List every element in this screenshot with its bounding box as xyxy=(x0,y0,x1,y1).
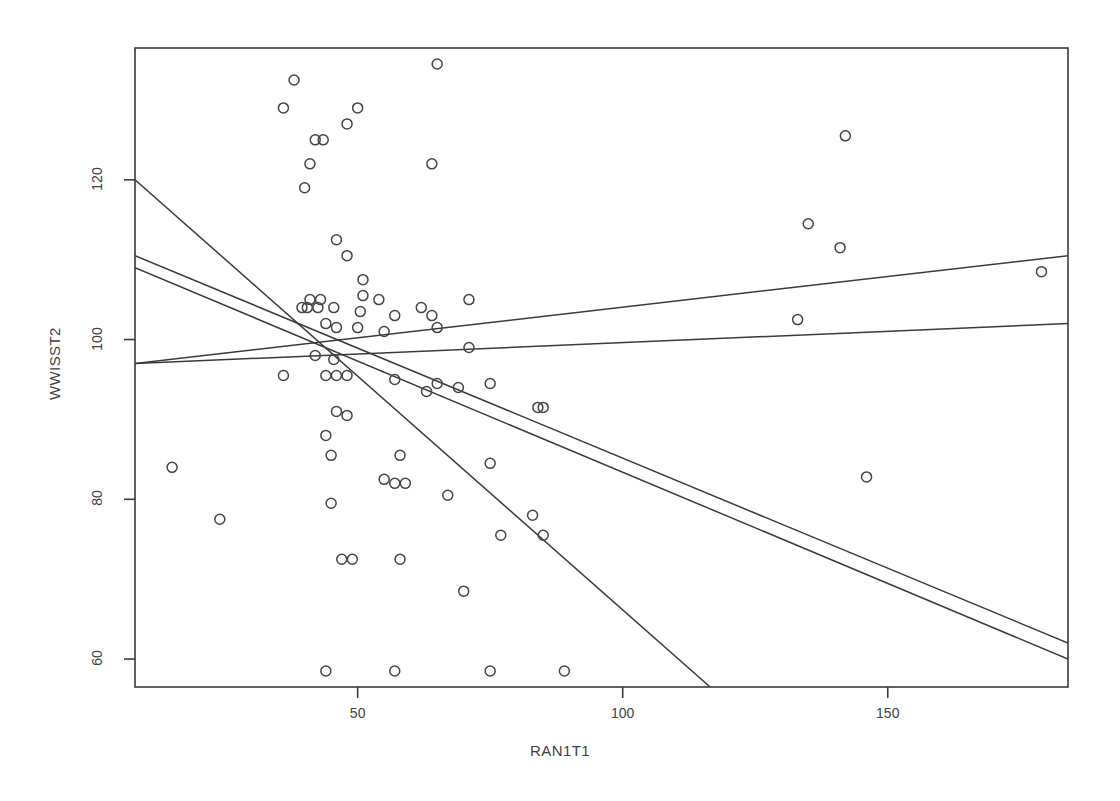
steep-negative-line xyxy=(135,180,710,687)
data-point xyxy=(390,478,400,488)
data-point xyxy=(559,666,569,676)
data-point xyxy=(326,498,336,508)
data-point xyxy=(278,103,288,113)
data-point xyxy=(443,490,453,500)
data-point xyxy=(331,370,341,380)
data-points xyxy=(167,59,1046,676)
y-tick-label: 120 xyxy=(89,159,105,199)
x-tick-label: 100 xyxy=(603,705,643,721)
data-point xyxy=(464,343,474,353)
data-point xyxy=(432,378,442,388)
x-axis-title: RAN1T1 xyxy=(0,742,1120,759)
data-point xyxy=(326,450,336,460)
data-point xyxy=(390,666,400,676)
data-point xyxy=(395,554,405,564)
scatter-plot-figure: RAN1T1 WWISST2 501001506080100120 xyxy=(0,0,1120,801)
data-point xyxy=(528,510,538,520)
x-tick-label: 50 xyxy=(338,705,378,721)
data-point xyxy=(215,514,225,524)
y-axis-title: WWISST2 xyxy=(46,327,63,400)
data-point xyxy=(358,291,368,301)
data-point xyxy=(321,370,331,380)
regression-lines xyxy=(135,180,1068,687)
data-point xyxy=(374,295,384,305)
data-point xyxy=(342,251,352,261)
y-tick-label: 80 xyxy=(89,478,105,518)
data-point xyxy=(400,478,410,488)
plot-canvas xyxy=(0,0,1120,801)
data-point xyxy=(321,430,331,440)
data-point xyxy=(355,307,365,317)
data-point xyxy=(395,450,405,460)
data-point xyxy=(379,474,389,484)
data-point xyxy=(305,159,315,169)
data-point xyxy=(342,370,352,380)
data-point xyxy=(353,323,363,333)
data-point xyxy=(427,311,437,321)
y-tick-label: 60 xyxy=(89,638,105,678)
data-point xyxy=(347,554,357,564)
data-point xyxy=(538,530,548,540)
data-point xyxy=(1036,267,1046,277)
data-point xyxy=(793,315,803,325)
x-tick-label: 150 xyxy=(868,705,908,721)
y-tick-label: 100 xyxy=(89,319,105,359)
data-point xyxy=(342,119,352,129)
data-point xyxy=(331,235,341,245)
data-point xyxy=(329,303,339,313)
data-point xyxy=(390,311,400,321)
data-point xyxy=(862,472,872,482)
data-point xyxy=(342,410,352,420)
data-point xyxy=(496,530,506,540)
data-point xyxy=(485,458,495,468)
data-point xyxy=(167,462,177,472)
data-point xyxy=(485,666,495,676)
data-point xyxy=(427,159,437,169)
data-point xyxy=(289,75,299,85)
data-point xyxy=(803,219,813,229)
negative-line-lower xyxy=(135,268,1068,659)
data-point xyxy=(337,554,347,564)
data-point xyxy=(331,323,341,333)
data-point xyxy=(416,303,426,313)
data-point xyxy=(840,131,850,141)
positive-line-lower xyxy=(135,324,1068,364)
data-point xyxy=(278,370,288,380)
data-point xyxy=(464,295,474,305)
data-point xyxy=(331,406,341,416)
data-point xyxy=(835,243,845,253)
data-point xyxy=(300,183,310,193)
data-point xyxy=(453,382,463,392)
data-point xyxy=(459,586,469,596)
data-point xyxy=(432,59,442,69)
data-point xyxy=(485,378,495,388)
data-point xyxy=(321,666,331,676)
data-point xyxy=(358,275,368,285)
positive-line-upper xyxy=(135,256,1068,364)
data-point xyxy=(321,319,331,329)
negative-line-upper xyxy=(135,256,1068,643)
data-point xyxy=(353,103,363,113)
axis-ticks xyxy=(124,180,888,698)
